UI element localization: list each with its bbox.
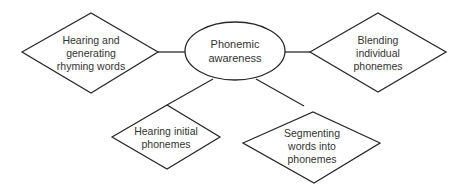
label-line: Segmenting — [284, 127, 340, 140]
label-line: words into — [284, 140, 340, 153]
concept-map-canvas — [0, 0, 466, 194]
node-label-phonemic-awareness: Phonemic awareness — [208, 37, 261, 65]
label-line: generating — [57, 47, 125, 60]
label-line: individual — [353, 47, 402, 60]
node-label-segmenting: Segmenting words into phonemes — [284, 127, 340, 166]
label-line: rhyming words — [57, 60, 125, 73]
edge-center-to-initial — [167, 79, 213, 105]
label-line: phonemes — [284, 153, 340, 166]
label-line: awareness — [208, 51, 261, 65]
label-line: Hearing initial — [134, 125, 198, 138]
node-label-rhyming: Hearing and generating rhyming words — [57, 34, 125, 73]
node-label-initial: Hearing initial phonemes — [134, 125, 198, 151]
node-label-blending: Blending individual phonemes — [353, 34, 402, 73]
label-line: phonemes — [353, 60, 402, 73]
label-line: Hearing and — [57, 34, 125, 47]
label-line: phonemes — [134, 138, 198, 151]
label-line: Phonemic — [208, 37, 261, 51]
label-line: Blending — [353, 34, 402, 47]
edge-center-to-segmenting — [256, 79, 304, 106]
